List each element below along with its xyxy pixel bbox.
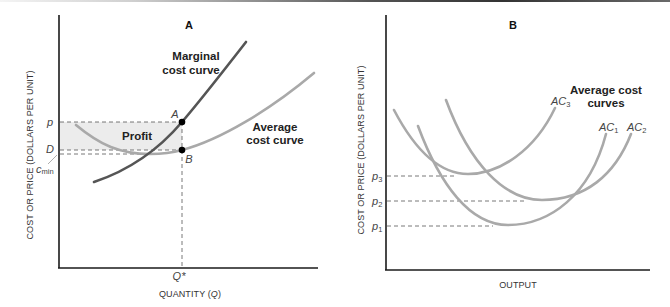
y-tick-d: D — [46, 143, 54, 155]
ac3-curve — [394, 108, 555, 174]
point-b-label: B — [185, 153, 192, 165]
panel-b: B Average cost curves AC3 AC1 AC2 p3 p2 … — [356, 15, 650, 290]
mc-label-line1: Marginal — [172, 50, 219, 62]
ac2-label: AC2 — [626, 121, 646, 135]
y-tick-p3: p3 — [371, 170, 382, 184]
cmin-leader — [48, 155, 57, 164]
ac-label-line2: cost curve — [246, 134, 304, 146]
y-axis-label-b: COST OR PRICE (DOLLARS PER UNIT) — [356, 65, 366, 234]
profit-label: Profit — [122, 130, 152, 142]
ac-group-label-line1: Average cost — [570, 84, 642, 96]
y-tick-p1: p1 — [371, 220, 382, 234]
point-b — [179, 147, 186, 154]
marginal-cost-curve — [94, 42, 246, 182]
x-axis-label-a: QUANTITY (Q) — [159, 289, 221, 299]
ac-group-label-line2: curves — [587, 97, 624, 109]
ac3-label: AC3 — [550, 95, 570, 109]
mc-label-line2: cost curve — [162, 64, 220, 76]
point-a — [179, 119, 186, 126]
ac-label-line1: Average — [253, 121, 298, 133]
x-axis-label-b: OUTPUT — [499, 280, 537, 290]
point-a-label: A — [170, 108, 178, 120]
ac1-label: AC1 — [598, 121, 618, 135]
y-tick-p: p — [46, 116, 53, 128]
y-tick-cmin: cmin — [36, 163, 54, 176]
cost-curves-figure: A Marginal cost curve Average cost curve… — [0, 0, 670, 307]
ac2-curve — [446, 100, 631, 200]
panel-a-title: A — [185, 19, 193, 31]
ac1-curve — [418, 126, 606, 225]
panel-a: A Marginal cost curve Average cost curve… — [25, 15, 318, 299]
y-axis-label-a: COST OR PRICE (DOLLARS PER UNIT) — [25, 70, 35, 239]
panel-b-title: B — [509, 19, 517, 31]
x-tick-q-star: Q* — [173, 270, 187, 282]
y-tick-p2: p2 — [371, 195, 382, 209]
